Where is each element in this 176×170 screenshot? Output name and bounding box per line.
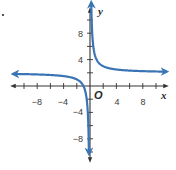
y-axis-label: y <box>96 5 103 17</box>
x-tick-label: −4 <box>58 97 68 107</box>
y-tick-label: 8 <box>78 29 83 39</box>
x-tick-labels: −8 −4 4 8 <box>32 97 146 107</box>
y-tick-label: −4 <box>73 107 83 117</box>
hyperbola-graph: −8 −4 4 8 8 4 −4 −8 y x O <box>0 0 176 170</box>
x-tick-label: 8 <box>140 97 145 107</box>
y-tick-label: −8 <box>73 134 83 144</box>
problem-marker <box>2 14 4 16</box>
x-tick-label: 4 <box>114 97 119 107</box>
y-tick-label: 4 <box>78 55 83 65</box>
x-tick-label: −8 <box>32 97 42 107</box>
origin-label: O <box>94 89 103 101</box>
x-axis-label: x <box>160 89 167 101</box>
